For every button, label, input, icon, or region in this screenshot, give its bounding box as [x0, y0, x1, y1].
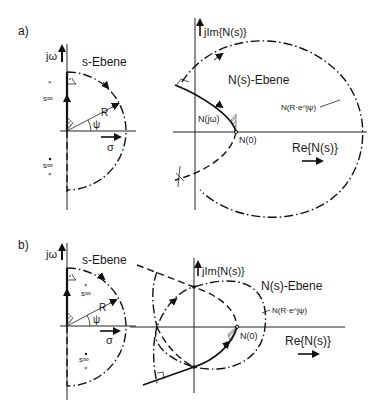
radius-line: [67, 300, 116, 326]
panel-b-s-plane: jω σ s-Ebene R ψ × s∞ s∞ ×: [45, 243, 136, 400]
svg-text:×: ×: [48, 171, 52, 177]
radius-arrow-icon: [112, 104, 118, 107]
nyquist-figure: a) jω σ s-Ebene R ψ × s∞ s∞: [0, 0, 378, 414]
contour-arrow-icon: [214, 54, 222, 60]
hatched-region: [67, 117, 73, 131]
arc-label: N(R·e^jψ): [272, 306, 308, 315]
sigma-label: σ: [106, 334, 113, 346]
angle-label: ψ: [93, 119, 100, 130]
right-angle-mark: [67, 274, 76, 280]
angle-label: ψ: [93, 314, 100, 325]
pole-upper-label: s∞: [43, 94, 53, 103]
n-jw-arrow-icon: [218, 104, 222, 107]
s-plane-title: s-Ebene: [82, 253, 127, 267]
hatched-region: [67, 312, 73, 326]
s-plane-title: s-Ebene: [82, 55, 127, 69]
svg-text:×: ×: [84, 282, 88, 288]
panel-a-n-plane: jIm{N(s)} Re{N(s)} N(s)-Ebene N(jω) N(0)…: [173, 18, 367, 217]
right-angle-mark-lower: [176, 166, 184, 187]
re-axis-label: Re{N(s)}: [292, 141, 338, 155]
dashed-lower-branch: [157, 327, 194, 367]
re-axis-label: Re{N(s)}: [285, 334, 331, 348]
angle-arc: [87, 315, 90, 326]
arc-label: N(R·e^jψ): [281, 103, 317, 112]
radius-label: R: [101, 107, 108, 118]
pole-lower-label: s∞: [79, 355, 89, 364]
right-angle-mark: [67, 78, 76, 84]
n-jw-curve: [175, 85, 236, 132]
jw-axis-label: jω: [45, 50, 57, 62]
arc-label-leader: [262, 310, 270, 313]
sigma-label: σ: [107, 141, 114, 153]
panel-b-label: b): [18, 238, 29, 252]
n0-label: N(0): [240, 331, 258, 341]
n0-label: N(0): [239, 135, 257, 145]
jw-axis-label: jω: [45, 248, 57, 260]
panel-a-s-plane: jω σ s-Ebene R ψ × s∞ s∞ ×: [43, 44, 136, 210]
n-jw-mirror-curve: [175, 132, 236, 180]
panel-a: a) jω σ s-Ebene R ψ × s∞ s∞: [18, 18, 367, 217]
n-plane-title: N(s)-Ebene: [228, 73, 290, 87]
radius-arrow-icon: [110, 300, 116, 303]
right-angle-dot: [69, 78, 71, 80]
angle-arc: [88, 120, 91, 131]
n-plane-title: N(s)-Ebene: [261, 279, 323, 293]
im-axis-label: jIm{N(s)}: [203, 26, 247, 38]
n-jw-curve: [143, 327, 237, 385]
pole-upper-label: s∞: [81, 289, 91, 298]
semicircle-contour: [67, 268, 126, 386]
panel-b: b) jω σ s-Ebene R ψ × s∞ s∞: [18, 238, 345, 400]
n-jw-label: N(jω): [198, 114, 220, 124]
arc-label-leader: [320, 100, 340, 107]
image-contour: [182, 41, 363, 217]
panel-a-label: a): [18, 24, 29, 38]
svg-text:×: ×: [84, 365, 88, 371]
radius-label: R: [99, 302, 106, 313]
panel-b-n-plane: jIm{N(s)} Re{N(s)} N(s)-Ebene N(0) N(R·e…: [130, 258, 345, 393]
svg-text:×: ×: [48, 79, 52, 85]
pole-lower-label: s∞: [43, 161, 53, 170]
im-axis-label: jIm{N(s)}: [201, 265, 245, 277]
